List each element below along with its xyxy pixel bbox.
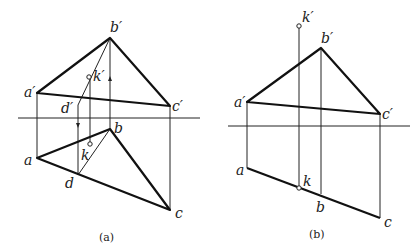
label-k: k bbox=[303, 173, 311, 189]
label-c: c bbox=[175, 205, 183, 221]
label-a: a bbox=[236, 162, 244, 178]
label-d: d bbox=[65, 175, 74, 191]
arrow-down-icon bbox=[76, 123, 80, 128]
triangle-front-view-b bbox=[247, 48, 380, 114]
point-k bbox=[88, 142, 92, 146]
label-d-prime: d′ bbox=[61, 100, 74, 116]
point-k-prime bbox=[87, 75, 91, 79]
arrow-up-icon bbox=[108, 76, 112, 81]
caption-b: (b) bbox=[309, 228, 325, 241]
label-c-prime: c′ bbox=[172, 98, 184, 114]
point-k-prime bbox=[297, 24, 301, 28]
label-b: b bbox=[114, 120, 123, 136]
label-c: c bbox=[384, 214, 392, 230]
label-k-prime: k′ bbox=[93, 68, 105, 84]
label-c-prime: c′ bbox=[382, 106, 394, 122]
line-top-view-b bbox=[247, 168, 380, 218]
projection-diagram: b′ k′ a′ d′ c′ a b k d c (a) k′ b′ a′ c′… bbox=[0, 0, 419, 252]
label-a-prime: a′ bbox=[24, 84, 36, 100]
label-k: k bbox=[81, 147, 89, 163]
triangle-top-view-a bbox=[37, 129, 170, 210]
label-b: b bbox=[316, 199, 325, 215]
label-b-prime: b′ bbox=[321, 30, 334, 46]
label-a: a bbox=[24, 152, 32, 168]
point-k bbox=[297, 186, 301, 190]
label-a-prime: a′ bbox=[234, 94, 246, 110]
figure-b: k′ b′ a′ c′ a k b c (b) bbox=[228, 9, 410, 241]
label-b-prime: b′ bbox=[110, 19, 123, 35]
caption-a: (a) bbox=[99, 231, 114, 244]
figure-a: b′ k′ a′ d′ c′ a b k d c (a) bbox=[18, 19, 200, 244]
label-k-prime: k′ bbox=[302, 9, 314, 25]
